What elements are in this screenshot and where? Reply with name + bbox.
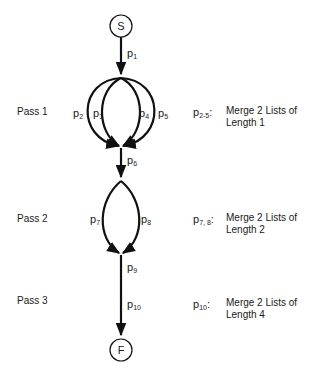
- edge-label-p1: p1: [127, 47, 137, 59]
- edge-label-p2: p2: [73, 107, 83, 119]
- edge-label-p5: p5: [158, 107, 168, 119]
- pass-1-description: Merge 2 Lists ofLength 1: [226, 105, 311, 129]
- pass-1-key: p2-5:: [193, 106, 212, 118]
- pass-1-label: Pass 1: [17, 106, 48, 118]
- edge-p8: [121, 181, 139, 253]
- edge-label-p3: p3: [93, 107, 103, 119]
- start-node-label: S: [110, 15, 132, 37]
- pass-2-label: Pass 2: [17, 213, 48, 225]
- edge-label-p7: p7: [90, 213, 100, 225]
- edge-p3: [102, 78, 121, 146]
- pass-2-description: Merge 2 Lists ofLength 2: [226, 212, 311, 236]
- finish-node-label: F: [110, 339, 132, 361]
- edge-p7: [103, 181, 121, 253]
- edge-p5: [121, 78, 154, 146]
- edge-label-p4: p4: [139, 107, 149, 119]
- edge-label-p10: p10: [127, 298, 141, 310]
- pass-3-description: Merge 2 Lists ofLength 4: [226, 297, 311, 321]
- pass-3-key: p10:: [193, 298, 210, 310]
- pass-2-key: p7, 8:: [193, 213, 214, 225]
- edge-label-p8: p8: [141, 213, 151, 225]
- pass-3-label: Pass 3: [17, 295, 48, 307]
- edge-label-p9: p9: [127, 261, 137, 273]
- edge-p4: [121, 78, 140, 146]
- edge-label-p6: p6: [127, 154, 137, 166]
